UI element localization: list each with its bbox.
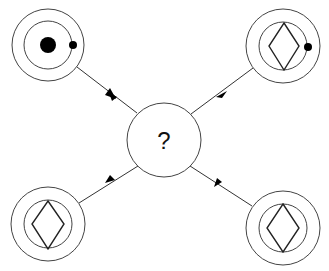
node-bottom-right: [246, 191, 320, 265]
edge-top-right: [191, 68, 253, 114]
edge-top-left: [77, 67, 137, 113]
edge-bottom-left: [79, 166, 138, 203]
small-dot-icon: [304, 43, 312, 51]
center-node: ?: [127, 103, 201, 177]
diagram-canvas: ?: [0, 0, 329, 271]
large-dot-icon: [40, 37, 56, 53]
node-top-right: [246, 9, 320, 83]
diamond-icon: [32, 201, 64, 249]
edge-bottom-right: [190, 166, 252, 206]
diamond-icon: [267, 204, 299, 252]
small-dot-icon: [69, 41, 77, 49]
center-question-mark: ?: [157, 127, 170, 154]
node-top-left: [12, 9, 84, 81]
node-bottom-left: [11, 187, 85, 261]
outer-ring: [246, 191, 320, 265]
diamond-icon: [269, 23, 299, 70]
